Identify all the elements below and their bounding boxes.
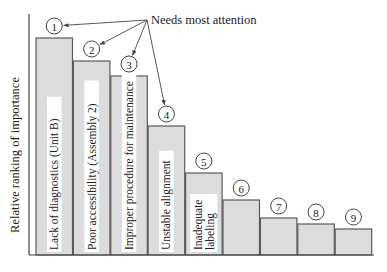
rank-number: 1 [52, 21, 58, 33]
bar-label: Unstable alignment [160, 159, 173, 250]
arrow-icon [147, 20, 165, 105]
bar-7 [260, 218, 297, 255]
arrow-icon [64, 20, 147, 25]
annotation-text: Needs most attention [151, 13, 257, 27]
pareto-chart: Relative ranking of importance Lack of d… [0, 0, 387, 272]
rank-number: 3 [126, 59, 132, 71]
bars-group: Lack of diagnostics (Unit B)Poor accessi… [36, 38, 372, 255]
bar-rect [223, 200, 260, 255]
bar-3: Improper procedure for maintenance [111, 64, 148, 255]
bar-rect [335, 229, 372, 255]
rank-number: 4 [164, 109, 170, 121]
bar-1: Lack of diagnostics (Unit B) [36, 38, 73, 255]
bar-rect [298, 224, 335, 255]
bar-2: Poor accessibility (Assembly 2) [73, 61, 110, 255]
bar-4: Unstable alignment [148, 126, 185, 255]
bar-5: Inadequatelabeling [186, 173, 223, 255]
bar-label: Lack of diagnostics (Unit B) [48, 118, 61, 250]
rank-number: 6 [239, 183, 245, 195]
bar-label: labeling [204, 213, 217, 250]
bar-label: Poor accessibility (Assembly 2) [86, 103, 99, 250]
arrow-icon [133, 20, 147, 55]
bar-6 [223, 200, 260, 255]
bar-label: Improper procedure for maintenance [123, 81, 136, 250]
bar-rect [260, 218, 297, 255]
rank-number: 8 [313, 207, 319, 219]
rank-number: 9 [351, 212, 357, 224]
rank-number: 2 [89, 44, 95, 56]
bar-8 [298, 224, 335, 255]
arrow-icon [100, 20, 147, 45]
bar-9 [335, 229, 372, 255]
rank-number: 5 [201, 156, 207, 168]
bar-label: Inadequate [192, 200, 205, 250]
rank-number: 7 [276, 201, 282, 213]
y-axis-label: Relative ranking of importance [8, 77, 22, 233]
